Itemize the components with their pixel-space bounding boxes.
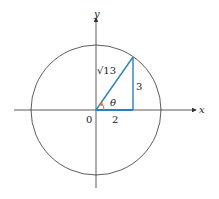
hypotenuse-label: √13	[97, 65, 116, 76]
y-axis-label: y	[93, 8, 100, 19]
x-axis-label: x	[199, 104, 205, 115]
unit-circle-diagram: y x 0 2 3 √13 θ	[0, 0, 219, 199]
origin-label: 0	[86, 114, 92, 125]
opposite-label: 3	[136, 81, 142, 92]
angle-label: θ	[110, 97, 116, 108]
adjacent-label: 2	[112, 114, 118, 125]
